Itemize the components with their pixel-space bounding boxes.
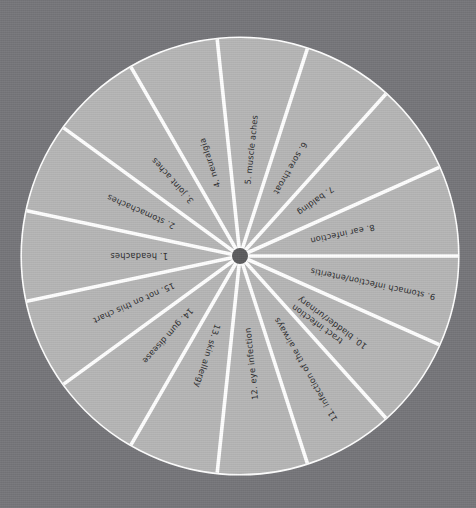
wheel-label-1: 1. headaches — [110, 251, 168, 261]
wheel-center-hub[interactable] — [232, 248, 248, 264]
wheel-svg: 1. headaches2. stomachaches3. joint ache… — [0, 0, 476, 508]
symptom-wheel-chart: 1. headaches2. stomachaches3. joint ache… — [0, 0, 476, 508]
wheel-label-group-1: 1. headaches — [110, 251, 168, 261]
